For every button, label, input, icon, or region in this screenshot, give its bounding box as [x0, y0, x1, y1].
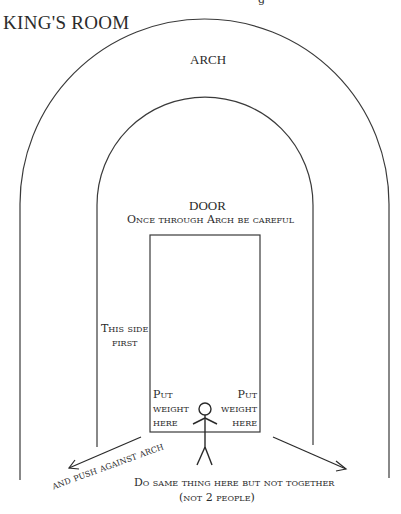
stick-figure-icon: [193, 403, 217, 465]
door-label: DOOR: [189, 198, 226, 214]
put-right-line3: here: [215, 416, 257, 430]
inner-arch: [97, 97, 313, 447]
door-note: Once through Arch be careful: [127, 213, 294, 226]
same-thing-note: Do same thing here but not together: [134, 476, 334, 489]
arch-diagram: [0, 0, 401, 514]
put-left-line1: Put: [153, 388, 189, 402]
arch-label: ARCH: [190, 52, 226, 68]
put-weight-right-note: Put weight here: [215, 388, 257, 430]
put-right-line1: Put: [215, 388, 257, 402]
outer-arch: [20, 19, 389, 480]
side-first-note: This side first: [101, 322, 148, 350]
arrow-down-right-icon: [273, 437, 346, 471]
side-note-line1: This side: [101, 322, 148, 336]
side-note-line2: first: [101, 336, 148, 350]
page-title: KING'S ROOM: [3, 12, 130, 34]
put-weight-left-note: Put weight here: [153, 388, 189, 430]
put-left-line2: weight: [153, 402, 189, 416]
not-two-people-note: (not 2 people): [179, 491, 255, 504]
cut-off-text: g: [258, 0, 265, 6]
put-right-line2: weight: [215, 402, 257, 416]
put-left-line3: here: [153, 416, 189, 430]
